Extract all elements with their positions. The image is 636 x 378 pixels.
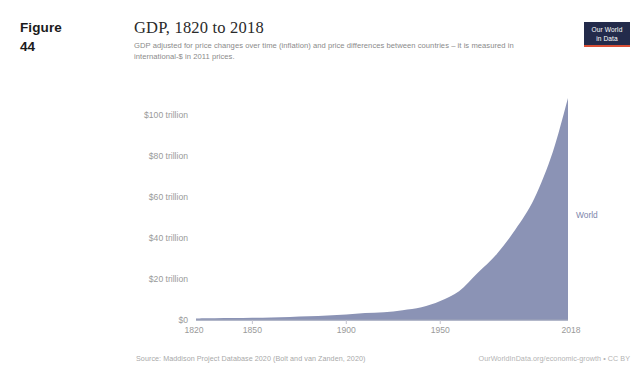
y-axis-tick-label-1: $20 trillion [149,274,188,284]
y-axis-tick-label-5: $100 trillion [144,110,188,120]
x-axis-tick-label-1: 1850 [243,325,262,335]
figure-caption-number: 44 [20,37,110,56]
x-axis-tick-label-2: 1900 [337,325,356,335]
gdp-area-chart: $0$20 trillion$40 trillion$60 trillion$8… [128,80,636,348]
area-series-world [196,98,568,320]
y-axis-tick-label-2: $40 trillion [149,233,188,243]
chart-subtitle: GDP adjusted for price changes over time… [134,41,534,62]
figure-caption-word: Figure [20,18,110,37]
figure-caption: Figure 44 [20,18,110,56]
x-axis-tick-label-3: 1950 [431,325,450,335]
logo-line-2: in Data [584,34,630,43]
series-label-world: World [576,210,598,220]
chart-card: GDP, 1820 to 2018 GDP adjusted for price… [128,8,636,374]
footer-credit-link[interactable]: OurWorldInData.org/economic-growth • CC … [479,354,630,363]
x-axis-tick-label-4: 2018 [561,325,580,335]
footer-source-text: Source: Maddison Project Database 2020 (… [136,354,365,363]
chart-title: GDP, 1820 to 2018 [134,18,554,38]
y-axis-tick-label-0: $0 [178,315,188,325]
our-world-in-data-logo[interactable]: Our World in Data [584,22,630,47]
y-axis-tick-label-3: $60 trillion [149,192,188,202]
y-axis-tick-label-4: $80 trillion [149,151,188,161]
chart-header: GDP, 1820 to 2018 GDP adjusted for price… [134,18,554,62]
plot-area: $0$20 trillion$40 trillion$60 trillion$8… [128,80,636,348]
chart-footer: Source: Maddison Project Database 2020 (… [128,354,636,366]
logo-line-1: Our World [584,25,630,34]
x-axis-tick-label-0: 1820 [184,325,203,335]
